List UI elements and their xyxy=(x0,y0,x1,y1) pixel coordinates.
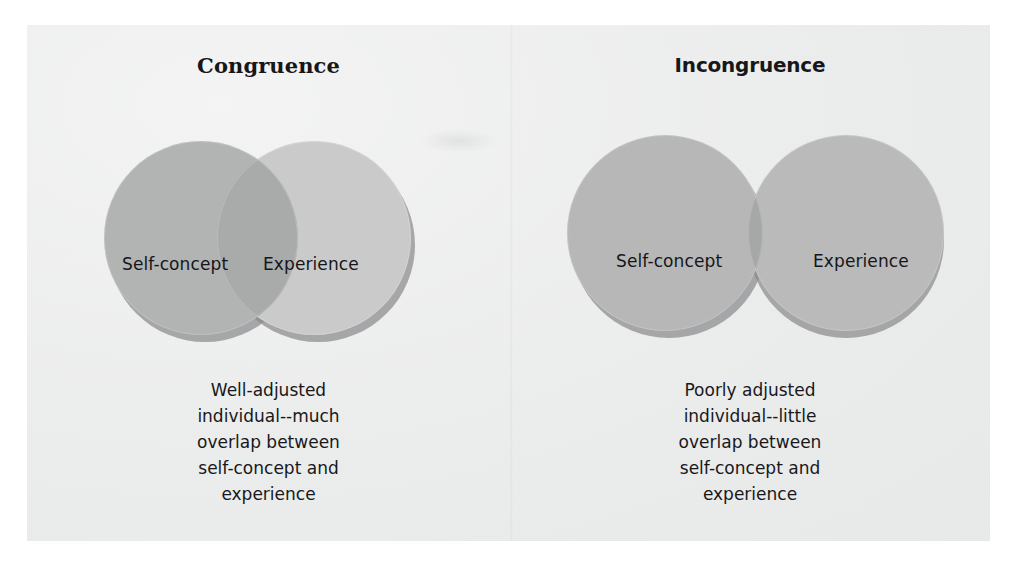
caption-line: Poorly adjusted xyxy=(510,377,990,403)
circle-label-self-concept: Self-concept xyxy=(122,254,228,274)
scanned-figure-plate: Congruence xyxy=(27,25,990,541)
caption-line: experience xyxy=(27,481,510,507)
venn-diagram-incongruence: Self-concept Experience xyxy=(565,130,965,362)
caption-line: self-concept and xyxy=(27,455,510,481)
caption-incongruence: Poorly adjusted individual--little overl… xyxy=(510,377,990,507)
caption-line: self-concept and xyxy=(510,455,990,481)
caption-line: Well-adjusted xyxy=(27,377,510,403)
caption-line: individual--little xyxy=(510,403,990,429)
caption-line: individual--much xyxy=(27,403,510,429)
caption-line: experience xyxy=(510,481,990,507)
caption-line: overlap between xyxy=(510,429,990,455)
circle-label-self-concept: Self-concept xyxy=(616,251,722,271)
figure-root: Congruence xyxy=(0,0,1016,569)
caption-congruence: Well-adjusted individual--much overlap b… xyxy=(27,377,510,507)
panel-title-incongruence: Incongruence xyxy=(510,53,990,77)
caption-line: overlap between xyxy=(27,429,510,455)
panel-title-congruence: Congruence xyxy=(27,53,510,78)
venn-diagram-congruence: Self-concept Experience xyxy=(103,133,413,363)
panel-congruence: Congruence xyxy=(27,25,510,541)
circle-label-experience: Experience xyxy=(263,254,359,274)
circle-label-experience: Experience xyxy=(813,251,909,271)
panel-incongruence: Incongruence Se xyxy=(510,25,990,541)
